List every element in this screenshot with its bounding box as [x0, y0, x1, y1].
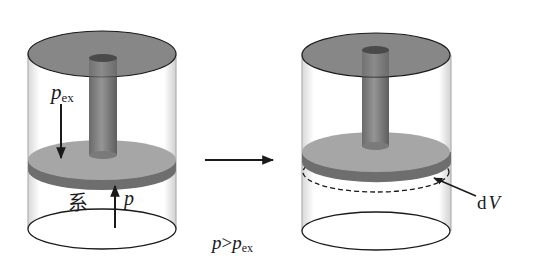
label-system: 系: [68, 192, 88, 214]
label-condition: p>pex: [210, 232, 253, 255]
cylinder-base: [302, 212, 450, 250]
label-p: p: [122, 187, 134, 210]
label-dV: dV: [477, 192, 503, 213]
cylinder-final: dV: [302, 33, 503, 250]
cylinder-base: [28, 209, 176, 249]
piston-expansion-diagram: pex 系 p p>pex dV: [0, 0, 535, 272]
cylinder-initial: pex 系 p: [28, 31, 176, 249]
